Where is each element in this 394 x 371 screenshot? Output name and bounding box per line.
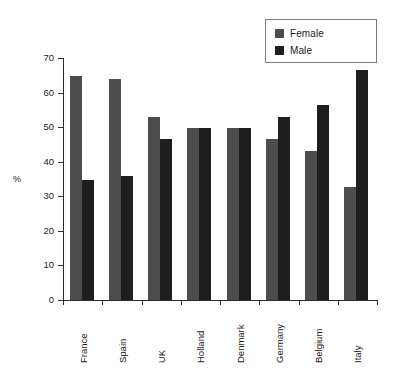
y-tick-label-wrap: 10	[8, 265, 54, 266]
x-tick-label-uk: UK	[157, 350, 167, 363]
bar-uk-female	[148, 117, 160, 300]
bar-spain-male	[121, 176, 133, 300]
x-tick-label-holland: Holland	[196, 331, 206, 363]
x-tick-label-belgium: Belgium	[314, 329, 324, 363]
y-tick-label: 30	[10, 191, 54, 201]
y-tick-label: 40	[10, 157, 54, 167]
plot-area	[63, 58, 377, 300]
y-tick-label-wrap: 40	[8, 162, 54, 163]
bar-chart: Female Male % 010203040506070 FranceSpai…	[0, 0, 394, 371]
legend-item-male: Male	[275, 42, 376, 59]
x-tick-label-spain: Spain	[118, 339, 128, 363]
x-tick	[181, 300, 182, 305]
y-tick-label: 20	[10, 226, 54, 236]
y-axis-title: %	[13, 175, 21, 184]
legend-label-male: Male	[290, 46, 312, 56]
bar-germany-male	[278, 117, 290, 300]
y-tick-label: 0	[10, 295, 54, 305]
bar-france-female	[70, 76, 82, 300]
y-tick-label-wrap: 30	[8, 196, 54, 197]
y-tick-label-wrap: 60	[8, 93, 54, 94]
x-tick-label-denmark: Denmark	[236, 324, 246, 363]
bar-uk-male	[160, 139, 172, 300]
x-tick-label-germany: Germany	[275, 324, 285, 363]
bar-germany-female	[266, 139, 278, 300]
bar-italy-female	[344, 187, 356, 300]
x-tick	[299, 300, 300, 305]
chart-legend: Female Male	[265, 19, 377, 63]
bar-denmark-female	[227, 128, 239, 300]
x-tick	[338, 300, 339, 305]
y-tick-label-wrap: 50	[8, 127, 54, 128]
x-tick-label-italy: Italy	[353, 346, 363, 363]
y-tick-label-wrap: 20	[8, 231, 54, 232]
x-tick	[63, 300, 64, 305]
x-tick-label-france: France	[79, 333, 89, 363]
y-tick-label: 60	[10, 88, 54, 98]
y-tick-label-wrap: 0	[8, 300, 54, 301]
y-tick-label-wrap: 70	[8, 58, 54, 59]
bar-france-male	[82, 180, 94, 300]
y-tick-label: 50	[10, 122, 54, 132]
x-tick	[142, 300, 143, 305]
y-tick-label: 10	[10, 260, 54, 270]
bar-belgium-male	[317, 105, 329, 300]
x-tick	[220, 300, 221, 305]
legend-item-female: Female	[275, 25, 376, 42]
bar-holland-female	[187, 128, 199, 300]
bar-belgium-female	[305, 151, 317, 300]
x-tick	[102, 300, 103, 305]
bar-denmark-male	[239, 128, 251, 300]
x-tick	[377, 300, 378, 305]
bar-holland-male	[199, 128, 211, 300]
y-tick-label: 70	[10, 53, 54, 63]
legend-swatch-female	[275, 29, 284, 38]
bar-spain-female	[109, 79, 121, 300]
legend-label-female: Female	[290, 29, 324, 39]
bar-italy-male	[356, 70, 368, 300]
legend-swatch-male	[275, 46, 284, 55]
x-tick	[259, 300, 260, 305]
